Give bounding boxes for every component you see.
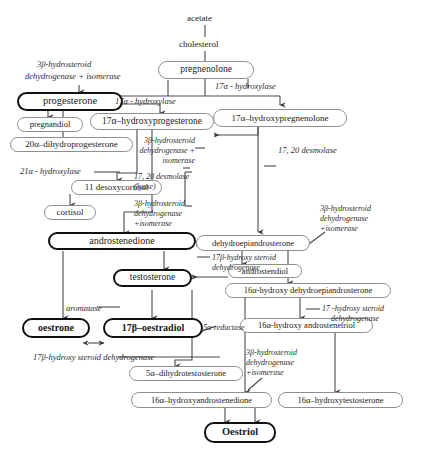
enzyme-3b-hsd-isomerase-bottom-line2: dehydrogenase <box>246 358 294 367</box>
enzyme-3b-hsd-isomerase-low-line3: +isomerase <box>134 219 172 228</box>
node-pregnenolone[interactable]: pregnenolone <box>158 61 254 79</box>
node-cholesterol[interactable]: cholesterol <box>179 40 219 49</box>
node-dehydroepiandrosterone[interactable]: dehydroepiandrosterone <box>196 235 310 251</box>
node-cortisol[interactable]: cortisol <box>44 205 96 220</box>
enzyme-3b-hsd-isomerase-right-line1: 3β-hydrosteroid <box>320 204 371 213</box>
enzyme-3b-hsd-isomerase-low-line2: dehydrogenase <box>134 209 182 218</box>
enzyme-17-20-desmolase-lyase-line1: 17, 20 desmolase <box>134 172 189 181</box>
enzyme-17-hydroxy-steroid-dh-line2: dehydrogenase <box>331 314 379 323</box>
clipped-header-text <box>0 0 424 9</box>
enzyme-17-20-desmolase-lyase-line2: (lyase) <box>134 182 156 191</box>
node-acetate[interactable]: acetate <box>187 14 212 23</box>
enzyme-3b-hsd-isomerase-right-line2: dehydrogenase <box>320 214 368 223</box>
enzyme-5a-reductase: 5α-reductase <box>203 323 245 332</box>
enzyme-3b-hsd-isomerase-bottom-line1: 3β-hydrosteroid <box>246 348 297 357</box>
enzyme-17-20-desmolase-right: 17, 20 desmolase <box>278 145 337 155</box>
enzyme-3b-hsd-isomerase-mid-line3: isomerase <box>117 156 195 165</box>
enzyme-3b-hsd-isomerase-topleft-line1: 3β-hydrosteroid <box>37 59 91 69</box>
node-16a-hydroxyandrostenedione[interactable]: 16α–hydroxyandrostenedione <box>131 392 272 408</box>
node-pregnandiol[interactable]: pregnandiol <box>17 117 83 132</box>
node-oestrone[interactable]: oestrone <box>22 318 90 338</box>
enzyme-3b-hsd-isomerase-bottom-line3: +isomerase <box>246 368 284 377</box>
node-progesterone[interactable]: progesterone <box>17 92 123 111</box>
enzyme-3b-hsd-isomerase-mid-line2: dehydrogenase + <box>117 146 195 155</box>
node-17b-oestradiol[interactable]: 17β–oestradiol <box>103 318 203 338</box>
node-17a-hydroxypregnenolone[interactable]: 17α–hydroxypregnenolone <box>213 109 347 127</box>
enzyme-3b-hsd-isomerase-low-line1: 3β-hydrosteroid <box>134 199 185 208</box>
enzyme-17b-hydroxy-steroid-dh-line1: 17β-hydroxy steroid <box>212 253 276 262</box>
enzyme-3b-hsd-isomerase-mid-line1: 3β-hydrosteroid <box>117 136 195 145</box>
steroid-pathway-diagram: acetate cholesterol pregnenolone progest… <box>0 0 424 458</box>
node-oestriol[interactable]: Oestriol <box>204 422 276 443</box>
enzyme-17-hydroxy-steroid-dh-line1: 17 -hydroxy steroid <box>322 304 384 313</box>
enzyme-aromatase: aromatase <box>66 303 102 313</box>
enzyme-21a-hydroxylase: 21α - hydroxylase <box>20 166 81 176</box>
node-androstenedione[interactable]: androstenedione <box>48 232 196 250</box>
enzyme-17a-hydroxylase-top: 17α - hydroxylase <box>215 81 276 91</box>
node-17a-hydroxyprogesterone[interactable]: 17α–hydroxyprogesterone <box>90 113 214 130</box>
enzyme-3b-hsd-isomerase-right-line3: +isomerase <box>320 224 358 233</box>
node-16a-hydroxy-dehydroepiandrosterone[interactable]: 16α-hydroxy dehydroepiandrosterone <box>225 283 391 298</box>
node-20a-dihydroprogesterone[interactable]: 20α–dihydroprogesterone <box>10 137 133 152</box>
node-16a-hydroxytestosterone[interactable]: 16α–hydroxytestosterone <box>278 392 403 408</box>
enzyme-17a-hydroxylase-mid: 17α - hydroxylase <box>115 96 176 106</box>
node-testosterone[interactable]: testosterone <box>113 269 192 287</box>
enzyme-17b-hydroxy-steroid-dehydrogenase-bottom: 17β-hydroxy steroid dehydrogenase <box>33 352 154 362</box>
enzyme-17b-hydroxy-steroid-dh-line2: dehydrogenase <box>212 263 260 272</box>
node-5a-dihydrotestosterone[interactable]: 5α–dihydrotestosterone <box>129 366 243 381</box>
enzyme-3b-hsd-isomerase-topleft-line2: dehydrogenase + isomerase <box>25 71 121 81</box>
